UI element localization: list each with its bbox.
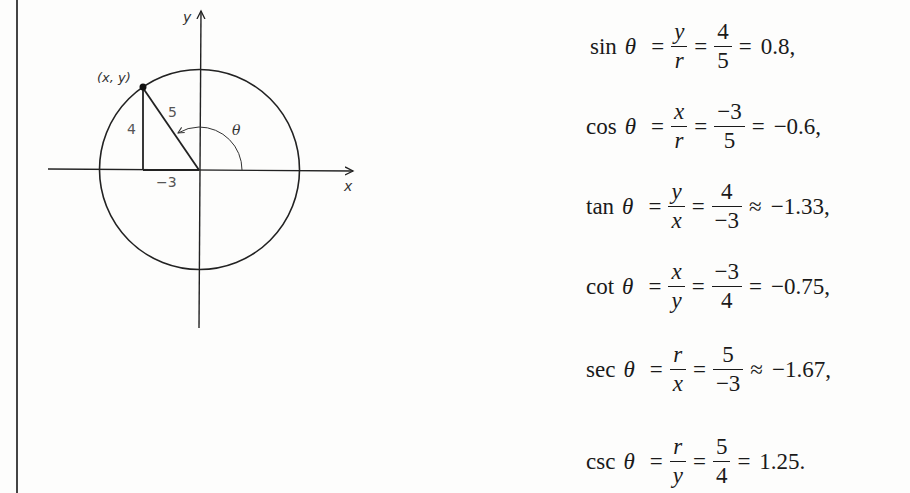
hypotenuse-label: 5 bbox=[168, 104, 177, 120]
theta-symbol: θ bbox=[623, 357, 634, 383]
ratio-fraction: yx bbox=[668, 180, 684, 234]
function-name: sin bbox=[590, 34, 617, 60]
ratio-fraction: xy bbox=[668, 260, 684, 314]
point-marker bbox=[140, 84, 147, 91]
equals-sign: = bbox=[694, 34, 707, 60]
result-value: 0.8, bbox=[761, 34, 796, 60]
adjacent-label: −3 bbox=[156, 174, 177, 190]
numerator: 4 bbox=[714, 20, 732, 44]
denominator: 5 bbox=[714, 49, 732, 73]
ratio-fraction: rx bbox=[670, 343, 686, 397]
result-value: −1.67, bbox=[772, 357, 831, 383]
denominator: y bbox=[668, 289, 684, 313]
value-fraction: −35 bbox=[714, 100, 744, 154]
value-fraction: 5−3 bbox=[713, 343, 743, 397]
function-name: cos bbox=[586, 114, 617, 140]
result-value: −1.33, bbox=[771, 194, 830, 220]
approx-sign: ≈ bbox=[749, 194, 762, 220]
value-fraction: 4−3 bbox=[712, 180, 742, 234]
denominator: 4 bbox=[718, 289, 736, 313]
approx-sign: ≈ bbox=[750, 357, 763, 383]
equals-sign: = bbox=[737, 449, 750, 475]
theta-label: θ bbox=[232, 122, 241, 138]
denominator: x bbox=[670, 372, 686, 396]
denominator: x bbox=[668, 209, 684, 233]
theta-symbol: θ bbox=[623, 449, 634, 475]
equals-sign: = bbox=[651, 114, 664, 140]
numerator: 4 bbox=[718, 180, 736, 204]
theta-symbol: θ bbox=[622, 194, 633, 220]
value-fraction: 54 bbox=[713, 435, 731, 489]
function-name: cot bbox=[586, 274, 614, 300]
equals-sign: = bbox=[648, 274, 661, 300]
numerator: r bbox=[670, 435, 685, 459]
point-label: (x, y) bbox=[97, 70, 131, 85]
value-fraction: 45 bbox=[714, 20, 732, 74]
theta-symbol: θ bbox=[625, 34, 636, 60]
numerator: x bbox=[671, 100, 687, 124]
numerator: −3 bbox=[712, 260, 742, 284]
equals-sign: = bbox=[694, 114, 707, 140]
equals-sign: = bbox=[693, 449, 706, 475]
equation-sec: sec θ = rx = 5−3 ≈ −1.67, bbox=[586, 343, 831, 397]
denominator: r bbox=[672, 49, 687, 73]
numerator: y bbox=[671, 20, 687, 44]
equation-cot: cot θ = xy = −34 = −0.75, bbox=[586, 260, 830, 314]
result-value: −0.75, bbox=[771, 274, 830, 300]
denominator: −3 bbox=[712, 209, 742, 233]
denominator: 5 bbox=[721, 129, 739, 153]
numerator: r bbox=[670, 343, 685, 367]
ratio-fraction: ry bbox=[670, 435, 686, 489]
equals-sign: = bbox=[752, 114, 765, 140]
equals-sign: = bbox=[693, 357, 706, 383]
equals-sign: = bbox=[650, 357, 663, 383]
result-value: −0.6, bbox=[774, 114, 821, 140]
denominator: −3 bbox=[713, 372, 743, 396]
equation-cos: cos θ = xr = −35 = −0.6, bbox=[586, 100, 821, 154]
equation-sin: sin θ = yr = 45 = 0.8, bbox=[590, 20, 795, 74]
unit-circle-diagram: y x (x, y) 5 4 −3 θ bbox=[0, 0, 400, 340]
equals-sign: = bbox=[651, 34, 664, 60]
denominator: r bbox=[672, 129, 687, 153]
equals-sign: = bbox=[739, 34, 752, 60]
function-name: sec bbox=[586, 357, 615, 383]
function-name: tan bbox=[586, 194, 614, 220]
numerator: 5 bbox=[719, 343, 737, 367]
equals-sign: = bbox=[692, 194, 705, 220]
equation-tan: tan θ = yx = 4−3 ≈ −1.33, bbox=[586, 180, 830, 234]
denominator: y bbox=[670, 464, 686, 488]
equation-csc: csc θ = ry = 54 = 1.25. bbox=[586, 435, 805, 489]
equals-sign: = bbox=[650, 449, 663, 475]
x-axis-label: x bbox=[343, 178, 353, 194]
hypotenuse bbox=[143, 88, 199, 170]
equals-sign: = bbox=[692, 274, 705, 300]
theta-symbol: θ bbox=[622, 274, 633, 300]
numerator: x bbox=[668, 260, 684, 284]
value-fraction: −34 bbox=[712, 260, 742, 314]
numerator: −3 bbox=[714, 100, 744, 124]
result-value: 1.25. bbox=[759, 449, 805, 475]
equals-sign: = bbox=[648, 194, 661, 220]
equals-sign: = bbox=[749, 274, 762, 300]
numerator: 5 bbox=[713, 435, 731, 459]
function-name: csc bbox=[586, 449, 615, 475]
ratio-fraction: yr bbox=[671, 20, 687, 74]
numerator: y bbox=[668, 180, 684, 204]
opposite-label: 4 bbox=[127, 121, 136, 137]
denominator: 4 bbox=[713, 464, 731, 488]
ratio-fraction: xr bbox=[671, 100, 687, 154]
theta-symbol: θ bbox=[625, 114, 636, 140]
y-axis-label: y bbox=[182, 9, 192, 25]
